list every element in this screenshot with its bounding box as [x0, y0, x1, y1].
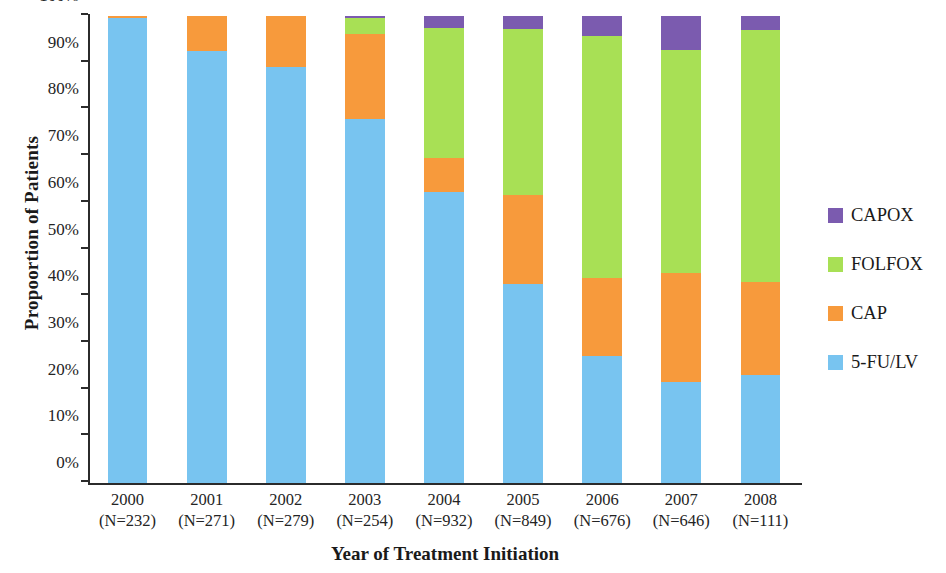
bar-segment-capox[interactable]: [741, 16, 781, 30]
x-tick-count: (N=279): [257, 510, 314, 531]
bar-group: 2006(N=676): [582, 16, 622, 483]
y-tick-mark: [81, 247, 88, 249]
legend-item[interactable]: FOLFOX: [828, 240, 946, 289]
y-tick-label: 10%: [48, 406, 79, 426]
x-tick-year: 2006: [574, 489, 631, 510]
y-tick-mark: [81, 200, 88, 202]
bar-group: 2003(N=254): [345, 16, 385, 483]
bar-segment-5-fu-lv[interactable]: [266, 67, 306, 483]
x-tick-count: (N=849): [495, 510, 552, 531]
x-tick-year: 2007: [653, 489, 710, 510]
bar-segment-folfox[interactable]: [424, 28, 464, 159]
y-tick-label: 0%: [56, 453, 79, 473]
bar-segment-5-fu-lv[interactable]: [503, 284, 543, 483]
x-tick-year: 2008: [733, 489, 789, 510]
y-tick-label: 100%: [39, 0, 79, 6]
legend-item[interactable]: CAP: [828, 289, 946, 338]
stacked-bar[interactable]: [345, 16, 385, 483]
bar-segment-capox[interactable]: [582, 16, 622, 36]
bar-segment-folfox[interactable]: [345, 18, 385, 33]
y-tick-mark: [81, 433, 88, 435]
bar-segment-5-fu-lv[interactable]: [582, 356, 622, 483]
stacked-bar[interactable]: [108, 16, 148, 483]
y-tick-label: 80%: [48, 79, 79, 99]
bar-segment-cap[interactable]: [741, 282, 781, 375]
y-axis-title: Propoortion of Patients: [21, 83, 43, 383]
bar-group: 2005(N=849): [503, 16, 543, 483]
y-tick-mark: [81, 60, 88, 62]
y-tick-mark: [81, 293, 88, 295]
y-tick-label: 70%: [48, 126, 79, 146]
bar-group: 2007(N=646): [661, 16, 701, 483]
x-axis-line: [88, 483, 802, 485]
x-tick-label: 2002(N=279): [257, 489, 314, 531]
bar-segment-cap[interactable]: [187, 16, 227, 51]
legend-swatch-icon: [828, 257, 843, 272]
bar-segment-5-fu-lv[interactable]: [424, 192, 464, 483]
bar-segment-cap[interactable]: [503, 195, 543, 284]
x-tick-year: 2001: [178, 489, 235, 510]
x-tick-count: (N=254): [336, 510, 393, 531]
bar-segment-capox[interactable]: [503, 16, 543, 29]
y-tick-mark: [81, 480, 88, 482]
legend-label: CAP: [851, 303, 887, 324]
bar-segment-5-fu-lv[interactable]: [661, 382, 701, 483]
bar-segment-cap[interactable]: [424, 158, 464, 192]
legend-item[interactable]: 5-FU/LV: [828, 338, 946, 387]
x-tick-label: 2001(N=271): [178, 489, 235, 531]
x-tick-count: (N=676): [574, 510, 631, 531]
bar-segment-folfox[interactable]: [503, 29, 543, 195]
bar-group: 2004(N=932): [424, 16, 464, 483]
stacked-bar[interactable]: [741, 16, 781, 483]
stacked-bar[interactable]: [187, 16, 227, 483]
bar-segment-cap[interactable]: [266, 16, 306, 67]
bar-segment-cap[interactable]: [345, 34, 385, 119]
x-tick-label: 2004(N=932): [416, 489, 473, 531]
legend-swatch-icon: [828, 208, 843, 223]
bar-segment-5-fu-lv[interactable]: [741, 375, 781, 483]
bar-segment-folfox[interactable]: [661, 50, 701, 273]
x-tick-year: 2000: [99, 489, 156, 510]
stacked-bar[interactable]: [503, 16, 543, 483]
y-tick-mark: [81, 340, 88, 342]
y-tick-mark: [81, 106, 88, 108]
bar-segment-folfox[interactable]: [582, 36, 622, 277]
bar-segment-cap[interactable]: [661, 273, 701, 382]
x-tick-count: (N=232): [99, 510, 156, 531]
y-tick-label: 30%: [48, 313, 79, 333]
bar-segment-capox[interactable]: [661, 16, 701, 50]
stacked-bar[interactable]: [661, 16, 701, 483]
stacked-bar[interactable]: [424, 16, 464, 483]
x-axis-title: Year of Treatment Initiation: [88, 543, 802, 565]
y-tick-mark: [81, 153, 88, 155]
legend-item[interactable]: CAPOX: [828, 191, 946, 240]
y-tick-label: 50%: [48, 220, 79, 240]
stacked-bar[interactable]: [582, 16, 622, 483]
bar-segment-cap[interactable]: [582, 278, 622, 356]
x-tick-count: (N=932): [416, 510, 473, 531]
y-tick-label: 40%: [48, 266, 79, 286]
x-tick-label: 2003(N=254): [336, 489, 393, 531]
y-tick-mark: [81, 387, 88, 389]
stacked-bar[interactable]: [266, 16, 306, 483]
bar-segment-folfox[interactable]: [741, 30, 781, 282]
x-tick-label: 2007(N=646): [653, 489, 710, 531]
bar-segment-5-fu-lv[interactable]: [187, 51, 227, 483]
x-tick-year: 2005: [495, 489, 552, 510]
legend-label: 5-FU/LV: [851, 352, 918, 373]
legend-swatch-icon: [828, 306, 843, 321]
y-tick-mark: [81, 13, 88, 15]
legend-swatch-icon: [828, 355, 843, 370]
x-tick-label: 2000(N=232): [99, 489, 156, 531]
bar-segment-capox[interactable]: [424, 16, 464, 28]
y-tick-label: 90%: [48, 33, 79, 53]
x-tick-label: 2006(N=676): [574, 489, 631, 531]
x-tick-label: 2008(N=111): [733, 489, 789, 531]
legend-label: CAPOX: [851, 205, 914, 226]
x-tick-count: (N=646): [653, 510, 710, 531]
bar-segment-5-fu-lv[interactable]: [108, 18, 148, 483]
bar-segment-5-fu-lv[interactable]: [345, 119, 385, 483]
chart-figure: Propoortion of Patients 0%10%20%30%40%50…: [0, 0, 946, 573]
bar-group: 2002(N=279): [266, 16, 306, 483]
legend-label: FOLFOX: [851, 254, 923, 275]
